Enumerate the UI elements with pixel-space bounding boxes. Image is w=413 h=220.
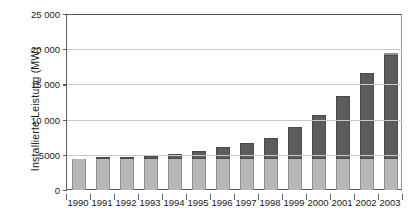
x-tick-separator-4	[162, 194, 163, 200]
y-tick-mark-5000	[63, 155, 67, 156]
y-tick-mark-25000	[63, 14, 67, 15]
x-tick-label-1996: 1996	[210, 197, 234, 208]
x-tick-separator-0	[66, 194, 67, 200]
bar-1991	[96, 159, 111, 190]
gridline-10000	[67, 120, 402, 121]
bar-segment-1994-0	[168, 159, 183, 190]
bar-segment-2003-1	[384, 55, 399, 159]
chart-container: Installierte Leistung (MW) 0500010 00015…	[0, 0, 413, 220]
bar-1996	[216, 147, 231, 190]
x-tick-separator-8	[258, 194, 259, 200]
x-tick-label-1995: 1995	[186, 197, 210, 208]
x-tick-label-1994: 1994	[162, 197, 186, 208]
bar-segment-1990-0	[72, 159, 87, 190]
x-tick-separator-6	[210, 194, 211, 200]
y-tick-label-25000: 25 000	[0, 9, 60, 20]
bar-segment-1992-1	[120, 157, 135, 159]
x-tick-label-1991: 1991	[90, 197, 114, 208]
bar-1999	[288, 127, 303, 190]
x-tick-label-2003: 2003	[378, 197, 402, 208]
bar-segment-2001-1	[336, 96, 351, 159]
bar-segment-1997-0	[240, 159, 255, 190]
bar-segment-2002-0	[360, 159, 375, 190]
gridline-20000	[67, 49, 402, 50]
x-tick-separator-1	[90, 194, 91, 200]
bar-1995	[192, 151, 207, 190]
y-tick-label-0: 0	[0, 185, 60, 196]
bar-2000	[312, 115, 327, 190]
x-tick-separator-7	[234, 194, 235, 200]
bar-segment-2003-2	[384, 53, 399, 55]
bars-layer	[67, 14, 402, 190]
x-tick-separator-13	[378, 194, 379, 200]
bar-segment-1995-0	[192, 159, 207, 190]
x-tick-label-2002: 2002	[354, 197, 378, 208]
bar-segment-1991-0	[96, 159, 111, 190]
bar-2002	[360, 73, 375, 190]
bar-1998	[264, 138, 279, 190]
x-tick-separator-end	[402, 194, 403, 200]
y-tick-mark-0	[63, 190, 67, 191]
bar-segment-1998-0	[264, 159, 279, 190]
bar-1994	[168, 154, 183, 190]
y-tick-mark-20000	[63, 49, 67, 50]
x-tick-label-1998: 1998	[258, 197, 282, 208]
y-tick-label-5000: 5000	[0, 149, 60, 160]
x-tick-separator-12	[354, 194, 355, 200]
x-tick-label-2000: 2000	[306, 197, 330, 208]
y-axis-title: Installierte Leistung (MW)	[29, 14, 41, 204]
x-tick-label-1990: 1990	[66, 197, 90, 208]
x-tick-separator-10	[306, 194, 307, 200]
bar-segment-1991-1	[96, 157, 111, 159]
x-tick-separator-5	[186, 194, 187, 200]
bar-segment-1996-1	[216, 147, 231, 159]
bar-1992	[120, 157, 135, 190]
bar-segment-1993-0	[144, 159, 159, 190]
x-tick-separator-2	[114, 194, 115, 200]
bar-segment-2003-0	[384, 159, 399, 190]
x-tick-label-1999: 1999	[282, 197, 306, 208]
bar-segment-1993-1	[144, 156, 159, 159]
y-tick-label-20000: 20 000	[0, 44, 60, 55]
plot-area	[66, 14, 402, 190]
x-tick-label-1992: 1992	[114, 197, 138, 208]
bar-1993	[144, 156, 159, 190]
bar-segment-1992-0	[120, 159, 135, 190]
y-tick-label-15000: 15 000	[0, 79, 60, 90]
bar-segment-2001-0	[336, 159, 351, 190]
bar-segment-1997-1	[240, 143, 255, 159]
bar-2003	[384, 53, 399, 190]
gridline-15000	[67, 84, 402, 85]
bar-1990	[72, 159, 87, 190]
x-tick-separator-9	[282, 194, 283, 200]
bar-1997	[240, 143, 255, 190]
bar-segment-2000-0	[312, 159, 327, 190]
gridline-25000	[67, 14, 402, 15]
y-tick-label-10000: 10 000	[0, 114, 60, 125]
bar-2001	[336, 96, 351, 190]
bar-segment-2002-1	[360, 73, 375, 159]
y-tick-mark-15000	[63, 84, 67, 85]
bar-segment-1999-0	[288, 159, 303, 190]
x-tick-label-1997: 1997	[234, 197, 258, 208]
x-tick-label-1993: 1993	[138, 197, 162, 208]
gridline-5000	[67, 155, 402, 156]
x-axis-labels: 1990199119921993199419951996199719981999…	[66, 194, 402, 214]
bar-segment-2000-1	[312, 115, 327, 158]
x-tick-label-2001: 2001	[330, 197, 354, 208]
x-tick-separator-3	[138, 194, 139, 200]
bar-segment-1996-0	[216, 159, 231, 190]
y-tick-mark-10000	[63, 120, 67, 121]
x-tick-separator-11	[330, 194, 331, 200]
